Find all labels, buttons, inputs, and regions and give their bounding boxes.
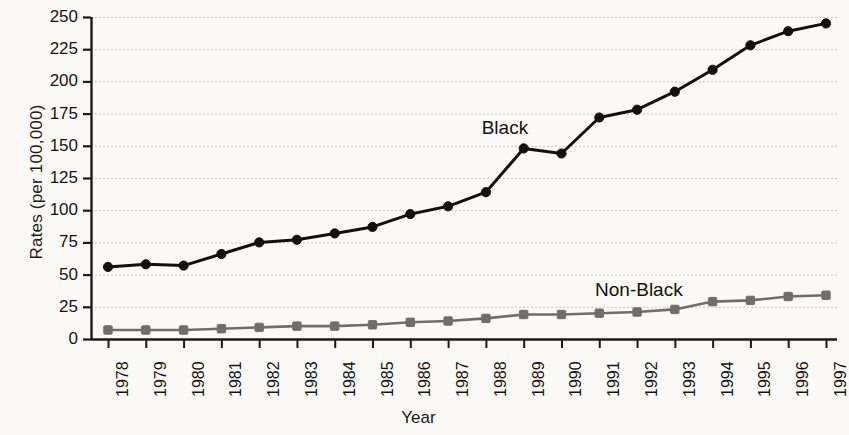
data-point — [784, 292, 792, 300]
data-point — [671, 305, 679, 313]
data-point — [595, 309, 603, 317]
data-point — [746, 296, 754, 304]
series-label-non-black: Non-Black — [595, 279, 683, 301]
data-point — [293, 322, 301, 330]
x-tick-label: 1984 — [342, 361, 358, 397]
y-tick-label: 250 — [32, 8, 78, 25]
x-tick-label: 1997 — [833, 361, 849, 397]
series-label-black: Black — [482, 117, 528, 139]
y-tick-label: 100 — [32, 201, 78, 218]
data-point — [292, 235, 301, 244]
data-point — [519, 144, 528, 153]
x-tick-label: 1993 — [682, 361, 698, 397]
data-point — [444, 317, 452, 325]
data-point — [406, 318, 414, 326]
x-tick-label: 1994 — [720, 361, 736, 397]
data-point — [179, 261, 188, 270]
data-point — [444, 202, 453, 211]
data-point — [331, 322, 339, 330]
data-point — [368, 222, 377, 231]
y-tick-label: 125 — [32, 169, 78, 186]
data-point — [368, 321, 376, 329]
y-tick-label: 25 — [32, 298, 78, 315]
data-point — [746, 41, 755, 50]
data-point — [708, 297, 716, 305]
data-point — [255, 238, 264, 247]
data-point — [255, 323, 263, 331]
y-tick-label: 50 — [32, 266, 78, 283]
y-tick-label: 200 — [32, 72, 78, 89]
data-point — [557, 149, 566, 158]
data-point — [481, 188, 490, 197]
data-point — [330, 229, 339, 238]
x-tick-label: 1989 — [531, 361, 547, 397]
x-tick-label: 1983 — [304, 361, 320, 397]
data-point — [141, 260, 150, 269]
x-tick-label: 1990 — [568, 361, 584, 397]
y-tick-label: 150 — [32, 137, 78, 154]
series-non-black — [104, 291, 830, 334]
x-tick-label: 1978 — [115, 361, 131, 397]
x-tick-label: 1986 — [417, 361, 433, 397]
x-tick-label: 1985 — [380, 361, 396, 397]
data-point — [557, 310, 565, 318]
data-point — [406, 210, 415, 219]
data-point — [595, 113, 604, 122]
x-tick-label: 1991 — [606, 361, 622, 397]
data-point — [708, 65, 717, 74]
x-tick-label: 1987 — [455, 361, 471, 397]
data-point — [179, 326, 187, 334]
data-point — [103, 262, 112, 271]
y-tick-label: 75 — [32, 233, 78, 250]
x-tick-label: 1981 — [228, 361, 244, 397]
x-tick-label: 1980 — [191, 361, 207, 397]
data-point — [670, 87, 679, 96]
x-axis-title: Year — [0, 408, 837, 428]
data-point — [482, 314, 490, 322]
data-point — [784, 27, 793, 36]
data-point — [633, 308, 641, 316]
data-point — [822, 291, 830, 299]
data-point — [104, 326, 112, 334]
data-point — [142, 326, 150, 334]
data-point — [217, 249, 226, 258]
x-tick-label: 1992 — [644, 361, 660, 397]
data-point — [821, 19, 830, 28]
x-tick-label: 1996 — [795, 361, 811, 397]
x-tick-label: 1995 — [757, 361, 773, 397]
x-tick-label: 1988 — [493, 361, 509, 397]
y-tick-group — [83, 18, 91, 340]
y-tick-label: 175 — [32, 105, 78, 122]
x-tick-label: 1979 — [153, 361, 169, 397]
series-black — [103, 19, 830, 272]
series-line — [108, 23, 826, 267]
data-point — [633, 105, 642, 114]
data-point — [520, 310, 528, 318]
y-tick-label: 0 — [32, 330, 78, 347]
series-line — [108, 295, 826, 330]
data-point — [217, 325, 225, 333]
y-tick-label: 225 — [32, 40, 78, 57]
x-tick-label: 1982 — [266, 361, 282, 397]
